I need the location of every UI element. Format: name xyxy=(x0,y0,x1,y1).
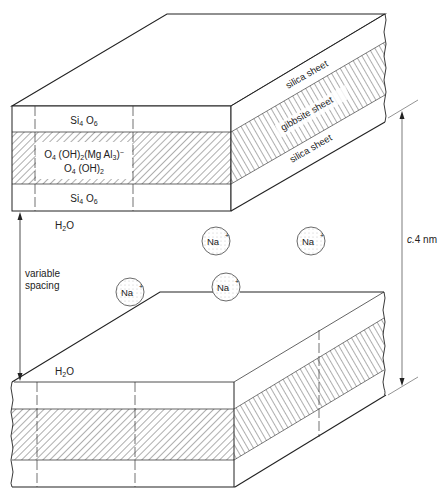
variable-spacing-arrow xyxy=(18,212,23,381)
svg-text:+: + xyxy=(225,232,229,239)
variable-spacing-label-1: variable xyxy=(25,268,60,279)
si4o6-upper-label: Si4 O6 xyxy=(70,115,97,127)
si4o6-lower-label: Si4 O6 xyxy=(70,193,97,205)
gibbsite-formula-line1: O4 (OH)2(Mg Al3)− xyxy=(44,149,124,161)
svg-text:Na: Na xyxy=(207,236,220,247)
top-clay-layer xyxy=(12,14,386,211)
clay-structure-diagram: Si4 O6 O4 (OH)2(Mg Al3)− O4 (OH)2 Si4 O6… xyxy=(0,0,444,495)
sodium-ion: Na + xyxy=(116,278,144,306)
variable-spacing-label-2: spacing xyxy=(25,280,59,291)
svg-text:Na: Na xyxy=(121,287,134,298)
water-label-top: H2O xyxy=(55,220,74,232)
basal-spacing-label: c.4 nm xyxy=(407,234,437,245)
svg-text:Na: Na xyxy=(217,282,230,293)
gibbsite-formula-line2: O4 (OH)2 xyxy=(64,163,104,175)
sodium-ion: Na + xyxy=(297,227,325,255)
sodium-ion: Na + xyxy=(202,227,230,255)
bottom-clay-layer xyxy=(11,292,386,487)
sodium-ion: Na + xyxy=(212,273,240,301)
svg-text:Na: Na xyxy=(302,236,315,247)
basal-spacing-dimension xyxy=(388,100,418,395)
svg-text:+: + xyxy=(320,232,324,239)
svg-text:+: + xyxy=(235,278,239,285)
svg-text:+: + xyxy=(139,283,143,290)
